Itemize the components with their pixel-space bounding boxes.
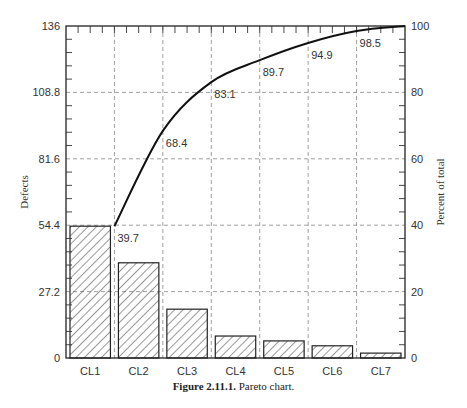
figure-caption: Figure 2.11.1. Pareto chart. xyxy=(0,380,467,392)
y2-tick-label: 60 xyxy=(411,153,423,165)
pareto-chart: 027.254.481.6108.8136020406080100CL1CL2C… xyxy=(0,0,467,408)
y2-axis-title: Percent of total xyxy=(434,158,446,225)
y-tick-label: 108.8 xyxy=(32,86,60,98)
bar-cl6 xyxy=(312,346,352,358)
y2-tick-label: 20 xyxy=(411,286,423,298)
y-tick-label: 136 xyxy=(42,20,60,32)
y2-tick-label: 0 xyxy=(411,352,417,364)
cumulative-label: 68.4 xyxy=(166,137,187,149)
cumulative-label: 94.9 xyxy=(311,49,332,61)
bar-cl3 xyxy=(167,309,207,358)
grid-lines xyxy=(66,26,405,358)
y-tick-label: 27.2 xyxy=(39,286,60,298)
x-tick-label: CL3 xyxy=(177,365,197,377)
cumulative-label: 83.1 xyxy=(214,88,235,100)
plot-frame xyxy=(66,26,405,358)
bars xyxy=(70,226,401,358)
caption-label: Figure 2.11.1. xyxy=(173,380,236,392)
y-tick-label: 0 xyxy=(54,352,60,364)
y-tick-label: 54.4 xyxy=(39,219,60,231)
y2-tick-label: 100 xyxy=(411,20,429,32)
y2-tick-label: 40 xyxy=(411,219,423,231)
caption-text: Pareto chart. xyxy=(239,380,295,392)
bar-cl1 xyxy=(70,226,110,358)
x-tick-label: CL4 xyxy=(225,365,245,377)
bar-cl4 xyxy=(215,336,255,358)
x-tick-label: CL6 xyxy=(322,365,342,377)
axis-ticks xyxy=(66,26,405,358)
bar-cl2 xyxy=(118,263,158,358)
bar-cl5 xyxy=(264,341,304,358)
x-tick-label: CL7 xyxy=(371,365,391,377)
cumulative-label: 98.5 xyxy=(360,37,381,49)
x-tick-label: CL2 xyxy=(129,365,149,377)
y-axis-title: Defects xyxy=(18,175,30,209)
bar-cl7 xyxy=(361,353,401,358)
cumulative-label: 39.7 xyxy=(117,232,138,244)
x-tick-label: CL5 xyxy=(274,365,294,377)
y-tick-label: 81.6 xyxy=(39,153,60,165)
y2-tick-label: 80 xyxy=(411,86,423,98)
cumulative-label: 89.7 xyxy=(263,66,284,78)
x-tick-label: CL1 xyxy=(80,365,100,377)
